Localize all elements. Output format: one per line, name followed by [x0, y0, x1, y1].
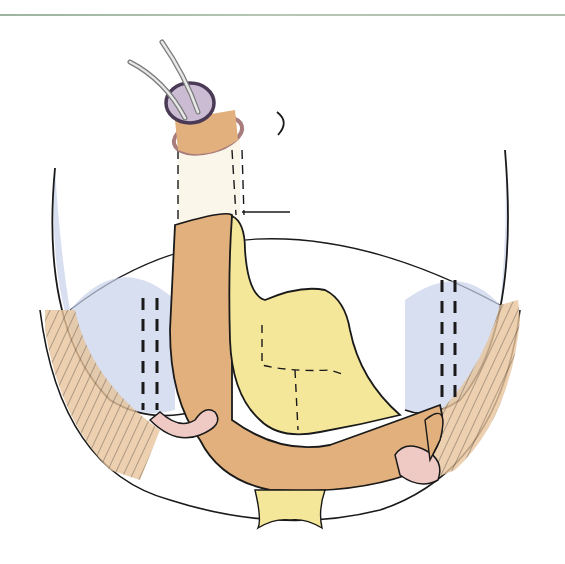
surgical-illustration	[0, 0, 565, 564]
figure-caption-cropped	[70, 555, 565, 564]
crescent-mark	[277, 112, 284, 135]
stomach-remnant	[229, 216, 400, 434]
pylorus-tail	[255, 490, 325, 528]
